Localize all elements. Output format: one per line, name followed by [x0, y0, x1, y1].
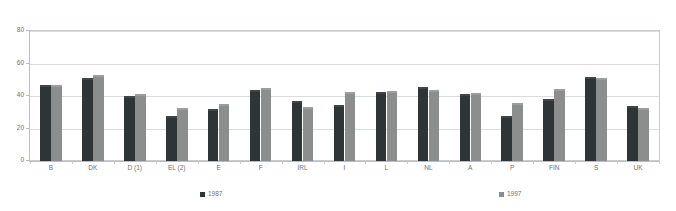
- x-tick-mark: [659, 161, 660, 164]
- x-tick-label: E: [198, 165, 240, 172]
- y-tick-mark: [26, 128, 29, 129]
- x-tick-mark: [407, 161, 408, 164]
- bar-top-highlight: [219, 104, 230, 106]
- bar-chart: 020406080 BDKD (1)EL (2)EFIRLILNLAPFINSU…: [0, 0, 676, 211]
- bar-top-highlight: [376, 92, 387, 94]
- bar-group: [575, 31, 617, 161]
- x-tick-mark: [533, 161, 534, 164]
- bar-top-highlight: [585, 77, 596, 79]
- bar-top-highlight: [93, 75, 104, 77]
- bar: [471, 93, 482, 161]
- bar-top-highlight: [250, 90, 261, 92]
- bar-group: [365, 31, 407, 161]
- bar-top-highlight: [208, 109, 219, 111]
- bar: [334, 105, 345, 161]
- legend-label: 1987: [208, 191, 222, 198]
- bar: [40, 85, 51, 161]
- x-tick-mark: [617, 161, 618, 164]
- chart-legend: 19871997: [0, 191, 676, 205]
- y-tick-label: 40: [0, 92, 24, 99]
- bar-top-highlight: [51, 85, 62, 87]
- x-tick-mark: [282, 161, 283, 164]
- bar-top-highlight: [345, 92, 356, 94]
- x-tick-label: UK: [617, 165, 659, 172]
- bar-top-highlight: [124, 96, 135, 98]
- bar-top-highlight: [387, 91, 398, 93]
- bar: [429, 90, 440, 162]
- x-axis-labels: BDKD (1)EL (2)EFIRLILNLAPFINSUK: [30, 165, 659, 177]
- legend-item[interactable]: 1987: [200, 191, 222, 198]
- bar: [638, 108, 649, 161]
- x-tick-label: D (1): [114, 165, 156, 172]
- bar-top-highlight: [501, 116, 512, 118]
- x-tick-mark: [240, 161, 241, 164]
- y-tick-mark: [26, 30, 29, 31]
- x-tick-label: A: [449, 165, 491, 172]
- bar-top-highlight: [460, 94, 471, 96]
- bar-group: [282, 31, 324, 161]
- bar-top-highlight: [166, 116, 177, 118]
- bar: [124, 96, 135, 161]
- bar: [261, 88, 272, 161]
- bar-top-highlight: [429, 90, 440, 92]
- bar-top-highlight: [627, 106, 638, 108]
- bar-group: [156, 31, 198, 161]
- bar-top-highlight: [303, 107, 314, 109]
- bar-top-highlight: [638, 108, 649, 110]
- bar-top-highlight: [512, 103, 523, 105]
- x-tick-mark: [30, 161, 31, 164]
- bar: [135, 94, 146, 161]
- bar: [596, 78, 607, 161]
- x-tick-label: DK: [72, 165, 114, 172]
- bar: [585, 77, 596, 161]
- x-tick-mark: [365, 161, 366, 164]
- x-tick-mark: [491, 161, 492, 164]
- bar: [208, 109, 219, 161]
- bar: [543, 99, 554, 161]
- y-tick-mark: [26, 63, 29, 64]
- y-tick-label: 60: [0, 60, 24, 67]
- bar-group: [30, 31, 72, 161]
- bar-top-highlight: [334, 105, 345, 107]
- bar-top-highlight: [82, 78, 93, 80]
- bar: [554, 89, 565, 161]
- bar: [627, 106, 638, 161]
- x-tick-label: P: [491, 165, 533, 172]
- x-tick-label: I: [324, 165, 366, 172]
- bar-group: [114, 31, 156, 161]
- x-tick-mark: [156, 161, 157, 164]
- bar-top-highlight: [596, 78, 607, 80]
- x-tick-mark: [449, 161, 450, 164]
- x-tick-label: L: [365, 165, 407, 172]
- bar: [51, 85, 62, 161]
- x-tick-label: EL (2): [156, 165, 198, 172]
- bar-top-highlight: [261, 88, 272, 90]
- bar: [418, 87, 429, 161]
- bar-top-highlight: [292, 101, 303, 103]
- bar: [501, 116, 512, 161]
- bar-top-highlight: [543, 99, 554, 101]
- x-tick-mark: [198, 161, 199, 164]
- x-axis-line: [29, 161, 660, 162]
- bar: [219, 104, 230, 161]
- bar-group: [449, 31, 491, 161]
- x-tick-label: FIN: [533, 165, 575, 172]
- bar-top-highlight: [177, 108, 188, 110]
- bar-top-highlight: [40, 85, 51, 87]
- bar: [345, 92, 356, 161]
- x-tick-label: IRL: [282, 165, 324, 172]
- bar-group: [407, 31, 449, 161]
- bar: [166, 116, 177, 161]
- x-tick-label: NL: [407, 165, 449, 172]
- x-tick-mark: [114, 161, 115, 164]
- x-tick-mark: [72, 161, 73, 164]
- bar: [82, 78, 93, 161]
- bar-top-highlight: [471, 93, 482, 95]
- bar: [177, 108, 188, 161]
- y-tick-label: 20: [0, 125, 24, 132]
- bar: [376, 92, 387, 161]
- legend-item[interactable]: 1997: [499, 191, 521, 198]
- x-tick-label: B: [30, 165, 72, 172]
- square-swatch-icon: [200, 192, 205, 197]
- bar-top-highlight: [135, 94, 146, 96]
